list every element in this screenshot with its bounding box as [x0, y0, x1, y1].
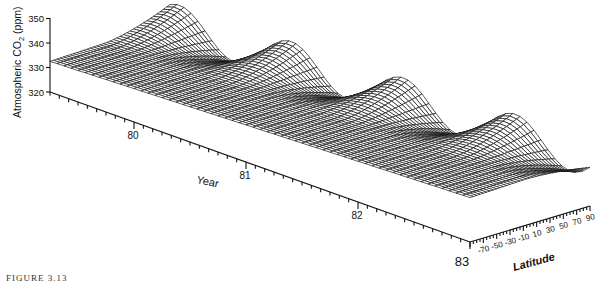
year-tick-label: 80 — [127, 130, 139, 141]
year-tick-label: 83 — [455, 254, 469, 269]
latitude-axis-label: Latitude — [511, 250, 555, 273]
z-axis-ticks: 320330340350 — [28, 13, 50, 98]
z-axis-label-main: Atmospheric CO — [11, 41, 23, 118]
latitude-tick-label: -30 — [504, 236, 518, 248]
year-axis-label: Year — [196, 173, 221, 189]
z-tick-label: 320 — [28, 87, 44, 98]
year-tick-label: 81 — [239, 170, 251, 181]
latitude-tick-label: 30 — [545, 224, 556, 235]
figure-caption: FIGURE 3.13 — [6, 273, 68, 282]
latitude-tick-label: -10 — [517, 232, 531, 244]
co2-surface-chart: 320330340350 Atmospheric CO2 (ppm) 80818… — [0, 0, 596, 282]
z-tick-label: 350 — [28, 13, 44, 24]
surface-mesh — [50, 5, 590, 198]
z-axis-label: Atmospheric CO2 (ppm) — [11, 6, 26, 118]
latitude-tick-label: -70 — [477, 244, 491, 256]
latitude-axis-ticks: -70-50-30-101030507090 — [470, 206, 596, 255]
z-axis-label-unit: (ppm) — [11, 6, 23, 36]
z-tick-label: 340 — [28, 38, 44, 49]
latitude-tick-label: -50 — [490, 240, 504, 252]
latitude-tick-label: 50 — [558, 220, 569, 231]
z-tick-label: 330 — [28, 62, 44, 73]
latitude-tick-label: 10 — [532, 228, 543, 239]
latitude-tick-label: 70 — [572, 216, 583, 227]
year-tick-label: 82 — [351, 210, 363, 221]
latitude-tick-label: 90 — [585, 212, 596, 223]
